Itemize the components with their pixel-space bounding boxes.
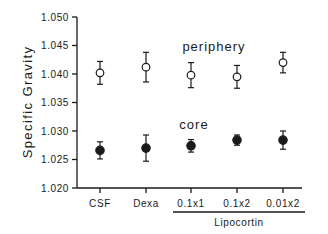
open-circle-marker [233, 73, 241, 81]
y-tick-label: 1.020 [41, 183, 69, 194]
x-tick-label: CSF [89, 198, 111, 209]
y-tick-label: 1.035 [41, 97, 69, 108]
series-core [96, 131, 287, 161]
x-axis: CSFDexa0.1x10.1x20.01x2Lipocortin [77, 188, 305, 228]
group-label-lipocortin: Lipocortin [214, 217, 263, 228]
open-circle-marker [187, 71, 195, 79]
filled-circle-marker [142, 144, 150, 152]
y-tick-label: 1.025 [41, 154, 69, 165]
y-tick-label: 1.040 [41, 69, 69, 80]
series-periphery [96, 52, 287, 88]
filled-circle-marker [96, 146, 104, 154]
y-axis-label: Specific Gravity [20, 46, 35, 159]
series-label-core: core [179, 117, 208, 132]
open-circle-marker [142, 63, 150, 71]
x-tick-label: 0.01x2 [266, 198, 300, 209]
y-tick-label: 1.050 [41, 12, 69, 23]
x-tick-label: 0.1x2 [223, 198, 250, 209]
open-circle-marker [279, 59, 287, 67]
filled-circle-marker [187, 142, 195, 150]
plot-area [96, 52, 287, 161]
y-tick-label: 1.030 [41, 126, 69, 137]
y-axis: 1.0201.0251.0301.0351.0401.0451.050 [41, 12, 77, 194]
open-circle-marker [96, 69, 104, 77]
y-tick-label: 1.045 [41, 40, 69, 51]
filled-circle-marker [233, 136, 241, 144]
filled-circle-marker [279, 136, 287, 144]
series-label-periphery: periphery [182, 39, 245, 54]
specific-gravity-chart: 1.0201.0251.0301.0351.0401.0451.050 CSFD… [0, 0, 328, 234]
x-tick-label: 0.1x1 [177, 198, 204, 209]
x-tick-label: Dexa [133, 198, 159, 209]
